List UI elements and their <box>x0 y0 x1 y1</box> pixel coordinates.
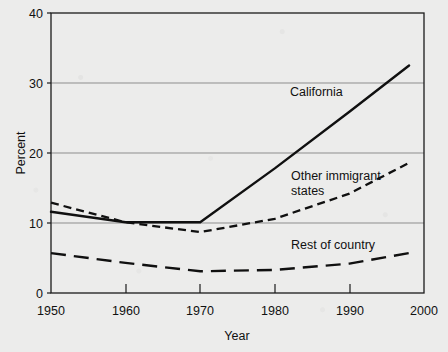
x-tick-label-1990: 1990 <box>336 304 364 318</box>
x-tick-label-1970: 1970 <box>186 304 214 318</box>
series-annotation-other-immigrant-states-line2: states <box>291 184 324 198</box>
x-tick-label-1980: 1980 <box>261 304 289 318</box>
y-tick-label-20: 20 <box>29 147 43 161</box>
series-line-rest-of-country <box>51 253 409 271</box>
x-tick-label-1950: 1950 <box>37 304 65 318</box>
x-tick-label-2000: 2000 <box>410 304 438 318</box>
series-annotation-other-immigrant-states-line1: Other immigrant <box>291 169 381 183</box>
series-annotation-california: California <box>290 85 343 99</box>
series-line-california <box>51 66 409 223</box>
x-axis-title: Year <box>224 329 249 343</box>
y-tick-label-10: 10 <box>29 217 43 231</box>
y-axis-title: Percent <box>14 131 28 175</box>
x-axis-ticks <box>126 284 350 293</box>
series-annotation-rest-of-country: Rest of country <box>291 238 376 252</box>
line-chart: 40 30 20 10 0 1950 1960 1970 1980 1990 2… <box>0 0 448 352</box>
x-tick-label-1960: 1960 <box>112 304 140 318</box>
chart-figure: 40 30 20 10 0 1950 1960 1970 1980 1990 2… <box>0 0 448 352</box>
y-tick-label-30: 30 <box>29 77 43 91</box>
gridlines <box>51 83 424 223</box>
y-tick-label-0: 0 <box>36 287 43 301</box>
y-tick-label-40: 40 <box>29 7 43 21</box>
